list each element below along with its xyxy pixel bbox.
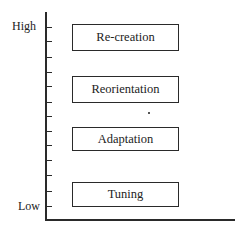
- axis-tick: [45, 72, 52, 73]
- axis-tick: [45, 191, 52, 192]
- axis-tick: [45, 86, 52, 87]
- axis-tick: [45, 175, 52, 176]
- x-axis-line: [45, 219, 235, 221]
- axis-tick: [45, 145, 52, 146]
- axis-tick: [45, 206, 52, 207]
- axis-tick: [45, 116, 52, 117]
- axis-tick: [45, 160, 52, 161]
- axis-tick: [45, 41, 52, 42]
- axis-label-low: Low: [18, 199, 40, 213]
- level-label: Reorientation: [91, 82, 159, 97]
- level-label: Tuning: [108, 187, 144, 202]
- level-box-reorientation: Reorientation: [72, 76, 179, 103]
- axis-tick: [45, 102, 52, 103]
- level-label: Re-creation: [96, 30, 154, 45]
- axis-label-high: High: [12, 19, 36, 33]
- speck-dot: [148, 112, 150, 114]
- axis-tick: [45, 27, 52, 28]
- level-box-recreation: Re-creation: [72, 24, 179, 51]
- level-box-tuning: Tuning: [72, 182, 179, 207]
- axis-tick: [45, 57, 52, 58]
- axis-tick: [45, 131, 52, 132]
- level-label: Adaptation: [98, 132, 154, 147]
- level-box-adaptation: Adaptation: [72, 127, 179, 151]
